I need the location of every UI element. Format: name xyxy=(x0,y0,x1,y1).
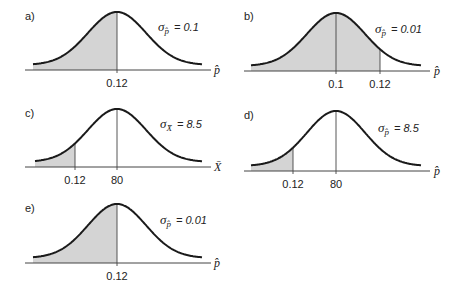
panel-b: b)σp̂ = 0.01p̂0.10.12 xyxy=(244,10,440,90)
panel-label: b) xyxy=(244,10,254,22)
tick-label: 0.1 xyxy=(328,78,343,90)
normal-curve xyxy=(35,109,202,161)
shaded-area xyxy=(35,143,75,167)
panel-label: a) xyxy=(25,10,35,22)
normal-distribution-figure: a)σp̂ = 0.1p̂0.12b)σp̂ = 0.01p̂0.10.12c)… xyxy=(0,0,454,291)
panel-d: d)σp̂ = 8.5p̂0.1280 xyxy=(244,109,440,190)
sigma-label: σp̂ = 0.01 xyxy=(375,21,422,38)
axis-variable-label: p̂ xyxy=(433,164,440,178)
axis-variable-label: X̄ xyxy=(213,160,222,174)
normal-curve xyxy=(33,12,202,64)
tick-label: 0.12 xyxy=(64,174,85,186)
tick-label: 80 xyxy=(111,174,123,186)
tick-label: 0.12 xyxy=(106,270,127,282)
sigma-label: σp̂ = 0.1 xyxy=(158,19,199,36)
normal-curve xyxy=(33,204,202,257)
tick-label: 80 xyxy=(330,178,342,190)
axis-variable-label: p̂ xyxy=(213,256,220,270)
shaded-area xyxy=(251,148,293,171)
shaded-area xyxy=(33,204,117,263)
tick-label: 0.12 xyxy=(282,178,303,190)
shaded-area xyxy=(33,12,117,70)
panel-c: c)σX̄ = 8.5X̄0.1280 xyxy=(25,107,222,186)
tick-label: 0.12 xyxy=(369,78,390,90)
sigma-label: σp̂ = 0.01 xyxy=(160,212,207,229)
sigma-label: σX̄ = 8.5 xyxy=(160,116,203,133)
sigma-label: σp̂ = 8.5 xyxy=(378,120,420,137)
panel-a: a)σp̂ = 0.1p̂0.12 xyxy=(25,10,220,89)
panel-e: e)σp̂ = 0.01p̂0.12 xyxy=(25,202,220,282)
axis-variable-label: p̂ xyxy=(213,63,220,77)
tick-label: 0.12 xyxy=(106,77,127,89)
panel-label: c) xyxy=(25,107,34,119)
axis-variable-label: p̂ xyxy=(433,64,440,78)
panel-label: e) xyxy=(25,202,35,214)
panel-label: d) xyxy=(244,109,254,121)
